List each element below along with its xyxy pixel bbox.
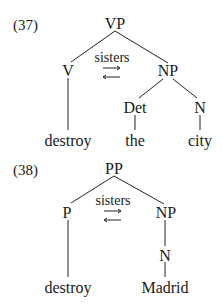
leaf-destroy: destroy: [44, 133, 91, 149]
leaf-madrid: Madrid: [141, 280, 188, 296]
node-np: NP: [158, 63, 178, 79]
sisters-label: sisters: [96, 194, 131, 208]
example-number: (38): [13, 162, 38, 178]
leaf-city: city: [188, 133, 212, 149]
node-np: NP: [156, 205, 176, 221]
leaf-destroy: destroy: [44, 280, 91, 296]
node-p: P: [63, 205, 72, 221]
node-pp: PP: [105, 161, 123, 177]
node-v: V: [62, 63, 74, 79]
node-det: Det: [123, 100, 146, 116]
tree-lines: [0, 0, 222, 306]
sisters-label: sisters: [95, 51, 130, 65]
node-vp: VP: [105, 16, 125, 32]
leaf-the: the: [125, 133, 145, 149]
example-number: (37): [13, 17, 38, 33]
node-n: N: [194, 100, 206, 116]
node-n: N: [159, 248, 171, 264]
